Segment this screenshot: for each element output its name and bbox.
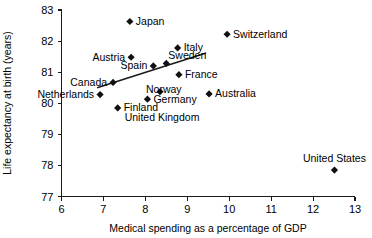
x-tick-label: 12 — [307, 203, 319, 215]
data-point-marker — [224, 31, 231, 38]
y-axis-ticks: 77787980818283 — [41, 4, 61, 203]
data-points-group: JapanSwitzerlandItalyAustriaSwedenSpainF… — [37, 15, 366, 174]
y-tick-label: 79 — [41, 128, 53, 140]
y-tick-label: 82 — [41, 35, 53, 47]
x-axis-ticks: 678910111213 — [58, 197, 361, 215]
data-point-marker — [126, 18, 133, 25]
chart-canvas: 77787980818283 678910111213 JapanSwitzer… — [0, 0, 372, 238]
x-tick-label: 7 — [100, 203, 106, 215]
data-point-label: France — [185, 68, 218, 80]
y-tick-label: 77 — [41, 191, 53, 203]
x-tick-label: 8 — [142, 203, 148, 215]
y-axis-title: Life expectancy at birth (years) — [1, 31, 13, 175]
x-tick-label: 10 — [223, 203, 235, 215]
data-point-marker — [331, 166, 338, 173]
data-point-label: Netherlands — [37, 88, 94, 100]
x-axis-title: Medical spending as a percentage of GDP — [109, 222, 306, 234]
x-tick-label: 9 — [184, 203, 190, 215]
data-point-label: United Kingdom — [125, 111, 200, 123]
data-point-marker — [205, 90, 212, 97]
scatter-chart: 77787980818283 678910111213 JapanSwitzer… — [0, 0, 372, 238]
data-point-marker — [114, 104, 121, 111]
data-point-label: Australia — [215, 87, 256, 99]
x-tick-label: 13 — [349, 203, 361, 215]
y-tick-label: 83 — [41, 4, 53, 16]
x-tick-label: 11 — [265, 203, 276, 215]
data-point-label: United States — [303, 152, 366, 164]
data-point-label: Spain — [120, 59, 147, 71]
data-point-label: Switzerland — [233, 28, 287, 40]
data-point-label: Canada — [70, 76, 107, 88]
y-tick-label: 81 — [41, 66, 53, 78]
data-point-marker — [175, 71, 182, 78]
x-tick-label: 6 — [58, 203, 64, 215]
data-point-label: Japan — [136, 15, 165, 27]
data-point-marker — [109, 79, 116, 86]
y-tick-label: 78 — [41, 159, 53, 171]
data-point-label: Germany — [153, 93, 197, 105]
data-point-marker — [96, 91, 103, 98]
data-point-label: Sweden — [168, 49, 206, 61]
